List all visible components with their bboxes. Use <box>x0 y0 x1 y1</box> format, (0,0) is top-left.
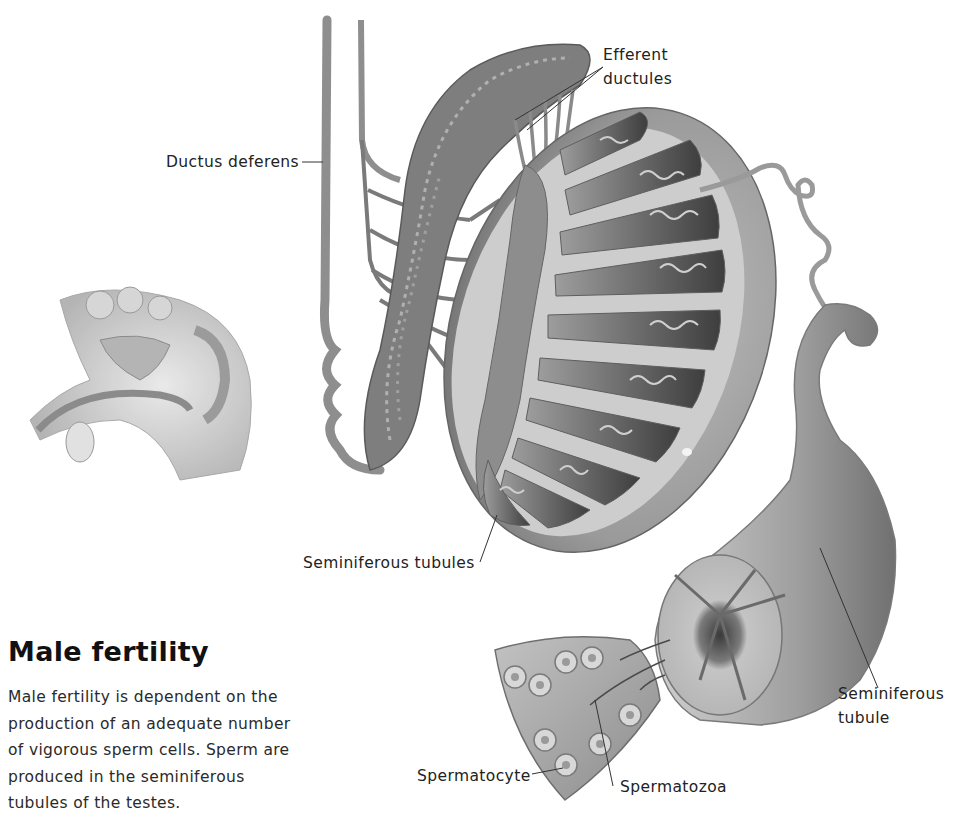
label-spermatocyte: Spermatocyte <box>417 766 531 786</box>
label-seminiferous-tubule-line2: tubule <box>838 708 890 728</box>
label-seminiferous-tubule-line1: Seminiferous <box>838 684 944 704</box>
label-spermatozoa: Spermatozoa <box>620 777 727 797</box>
label-efferent-ductules-line1: Efferent <box>603 45 668 65</box>
caption-line: production of an adequate number <box>8 711 318 738</box>
label-ductus-deferens: Ductus deferens <box>166 152 299 172</box>
caption-line: Male fertility is dependent on the <box>8 684 318 711</box>
sagittal-overview <box>30 287 251 480</box>
caption-line: of vigorous sperm cells. Sperm are <box>8 737 318 764</box>
label-seminiferous-tubules: Seminiferous tubules <box>303 553 475 573</box>
label-efferent-ductules-line2: ductules <box>603 69 672 89</box>
figure-title: Male fertility <box>8 636 209 667</box>
caption-line: tubules of the testes. <box>8 790 318 817</box>
figure-caption: Male fertility is dependent on the produ… <box>8 684 318 817</box>
caption-line: produced in the seminiferous <box>8 764 318 791</box>
